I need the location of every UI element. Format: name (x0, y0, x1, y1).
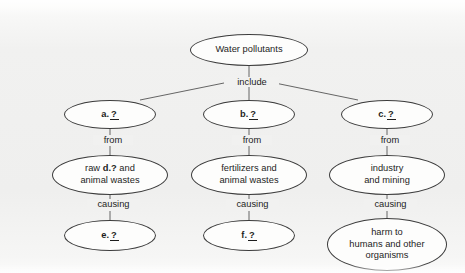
node-blank-b[interactable]: b.? (203, 100, 295, 129)
node-label: fertilizers and animal wastes (212, 163, 285, 186)
node-label: Water pollutants (208, 44, 289, 56)
edge-label-text: causing (374, 199, 406, 209)
blank-question-a: ? (110, 109, 119, 120)
node-water-pollutants[interactable]: Water pollutants (190, 34, 308, 66)
edge-label-text: from (381, 135, 400, 145)
edge-label-text: causing (97, 199, 129, 209)
blank-letter-d: d. (103, 163, 111, 173)
node-label: f.? (234, 230, 263, 242)
node-label: a.? (94, 109, 126, 121)
edge-label-from-c: from (370, 135, 410, 145)
edge-label-text: from (104, 135, 123, 145)
blank-letter-c: c. (378, 109, 386, 119)
blank-question-c: ? (387, 109, 396, 120)
link-include-to-a (140, 83, 224, 100)
blank-letter-a: a. (101, 109, 109, 119)
edge-label-causing-a: causing (87, 199, 140, 209)
node-label: harm to humans and other organisms (342, 227, 431, 262)
edge-label-causing-c: causing (364, 199, 417, 209)
link-include-to-c (275, 83, 358, 100)
edge-label-text: causing (236, 199, 268, 209)
edge-label-include: include (225, 77, 279, 87)
source-text-before: raw (85, 163, 103, 173)
blank-question-e: ? (110, 230, 119, 241)
node-blank-f[interactable]: f.? (203, 220, 295, 251)
node-label: e.? (94, 230, 126, 242)
node-blank-a[interactable]: a.? (64, 100, 156, 129)
edge-label-text: from (243, 135, 262, 145)
node-source-fertilizers[interactable]: fertilizers and animal wastes (191, 155, 307, 195)
blank-letter-f: f. (241, 230, 247, 240)
edge-label-from-b: from (232, 135, 272, 145)
edge-label-causing-b: causing (226, 199, 279, 209)
blank-question-b: ? (249, 109, 258, 120)
node-source-industry[interactable]: industry and mining (329, 155, 445, 195)
node-effect-harm[interactable]: harm to humans and other organisms (327, 218, 447, 271)
blank-question-f: ? (248, 230, 257, 241)
node-blank-e[interactable]: e.? (64, 220, 156, 251)
edge-label-text: include (237, 77, 266, 87)
node-source-raw-d[interactable]: raw d.? and animal wastes (52, 155, 168, 195)
node-blank-c[interactable]: c.? (341, 100, 433, 129)
node-label: raw d.? and animal wastes (73, 163, 146, 186)
blank-letter-e: e. (101, 230, 109, 240)
node-label: c.? (371, 109, 403, 121)
node-label: b.? (233, 109, 265, 121)
concept-map-diagram: Water pollutants include a.? b.? c.? fro… (0, 0, 465, 273)
blank-letter-b: b. (240, 109, 248, 119)
edge-label-from-a: from (93, 135, 133, 145)
node-label: industry and mining (357, 163, 417, 186)
